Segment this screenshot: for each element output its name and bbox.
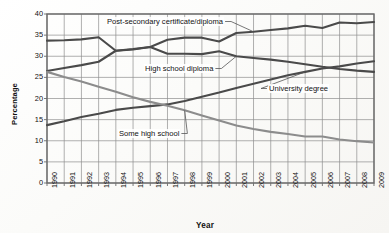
series-label-high-school-diploma: High school diploma: [144, 64, 214, 73]
series-label-post-secondary: Post-secondary certificate/diploma: [106, 17, 224, 26]
chart-figure: Percentage Year 4035302520151050 1990199…: [0, 0, 389, 233]
y-tick-label: 35: [21, 30, 43, 39]
annotation-leader-line: [225, 22, 253, 32]
x-tick-label: 1992: [85, 172, 94, 188]
x-tick-label: 1990: [50, 172, 59, 188]
x-tick-label: 2006: [326, 172, 335, 188]
y-tick-label: 20: [21, 94, 43, 103]
x-tick-label: 1996: [154, 172, 163, 188]
x-tick-label: 2009: [377, 172, 386, 188]
x-tick-label: 1995: [136, 172, 145, 188]
series-line-some-high-school: [47, 72, 374, 143]
y-tick-label: 5: [21, 157, 43, 166]
series-label-university-degree: University degree: [268, 84, 329, 93]
y-tick-label: 40: [21, 9, 43, 18]
series-lines: [47, 22, 374, 142]
y-tick-label: 30: [21, 51, 43, 60]
x-tick-label: 2001: [240, 172, 249, 188]
x-tick-label: 2005: [309, 172, 318, 188]
x-tick-label: 2003: [274, 172, 283, 188]
plot-area: [0, 0, 389, 233]
y-tick-label: 0: [21, 178, 43, 187]
x-tick-label: 1991: [68, 172, 77, 188]
x-tick-label: 1993: [102, 172, 111, 188]
series-line-post-secondary-certificate-diploma: [47, 22, 374, 51]
x-tick-label: 1997: [171, 172, 180, 188]
x-tick-label: 2000: [223, 172, 232, 188]
x-tick-label: 2007: [343, 172, 352, 188]
x-tick-label: 1998: [188, 172, 197, 188]
x-tick-label: 1994: [119, 172, 128, 188]
x-tick-label: 1999: [205, 172, 214, 188]
y-tick-label: 15: [21, 115, 43, 124]
x-tick-label: 2004: [291, 172, 300, 188]
y-tick-label: 25: [21, 72, 43, 81]
y-tick-label: 10: [21, 136, 43, 145]
annotation-leader-line: [215, 56, 236, 68]
series-label-some-high-school: Some high school: [118, 129, 180, 138]
x-tick-label: 2002: [257, 172, 266, 188]
x-tick-label: 2008: [360, 172, 369, 188]
